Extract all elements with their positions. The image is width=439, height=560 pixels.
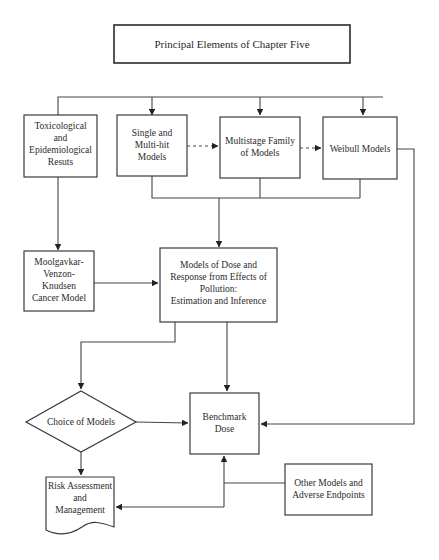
svg-text:Models: Models <box>138 152 167 162</box>
svg-text:Epidemiological: Epidemiological <box>29 145 92 155</box>
dose-response-node: Models of Dose and Response from Effects… <box>160 248 277 322</box>
svg-text:and: and <box>54 133 68 143</box>
svg-text:Risk Assessment: Risk Assessment <box>48 481 112 491</box>
svg-text:Choice of Models: Choice of Models <box>47 417 115 427</box>
svg-text:Resuts: Resuts <box>48 157 74 167</box>
weibull-node: Weibull Models <box>323 117 397 179</box>
title-text: Principal Elements of Chapter Five <box>154 38 309 50</box>
merge-connector <box>152 176 360 247</box>
svg-text:and: and <box>73 493 87 503</box>
risk-assessment-node: Risk Assessment and Management <box>46 477 114 534</box>
other-models-connector <box>116 456 285 507</box>
svg-text:Toxicological: Toxicological <box>34 121 86 131</box>
top-distribution-connector <box>58 97 383 115</box>
other-models-node: Other Models and Adverse Endpoints <box>285 464 372 515</box>
multistage-node: Multistage Family of Models <box>220 117 300 178</box>
svg-text:Dose: Dose <box>215 424 235 434</box>
svg-text:Adverse Endpoints: Adverse Endpoints <box>292 490 365 500</box>
svg-text:Models of Dose and: Models of Dose and <box>180 260 257 270</box>
arrow-weibull-to-benchmark <box>261 149 414 424</box>
svg-text:Weibull Models: Weibull Models <box>330 144 391 154</box>
single-multi-hit-node: Single and Multi-hit Models <box>117 115 187 176</box>
svg-text:Multistage Family: Multistage Family <box>225 136 295 146</box>
toxicological-node: Toxicological and Epidemiological Resuts <box>24 115 97 177</box>
svg-text:Moolgavkar-: Moolgavkar- <box>34 257 83 267</box>
svg-text:Response from Effects of: Response from Effects of <box>170 272 267 282</box>
svg-text:Cancer Model: Cancer Model <box>32 293 86 303</box>
svg-text:Estimation and Inference: Estimation and Inference <box>171 296 267 306</box>
arrow-dose-response-to-choice <box>81 322 175 389</box>
mvk-node: Moolgavkar- Venzon- Knudsen Cancer Model <box>24 251 94 311</box>
svg-text:Other Models and: Other Models and <box>294 478 363 488</box>
svg-text:Knudsen: Knudsen <box>42 281 76 291</box>
svg-text:Multi-hit: Multi-hit <box>135 140 170 150</box>
svg-text:Single and: Single and <box>132 128 173 138</box>
title-node: Principal Elements of Chapter Five <box>114 25 350 63</box>
svg-text:Benchmark: Benchmark <box>203 412 247 422</box>
svg-text:Venzon-: Venzon- <box>43 269 75 279</box>
arrow-choice-to-benchmark <box>136 422 188 423</box>
svg-text:Pollution:: Pollution: <box>200 284 237 294</box>
svg-text:of Models: of Models <box>241 148 280 158</box>
benchmark-dose-node: Benchmark Dose <box>190 393 259 454</box>
choice-decision-node: Choice of Models <box>26 391 136 452</box>
svg-text:Management: Management <box>55 505 105 515</box>
chapter-five-flow-diagram: Principal Elements of Chapter Five Toxic… <box>0 0 439 560</box>
